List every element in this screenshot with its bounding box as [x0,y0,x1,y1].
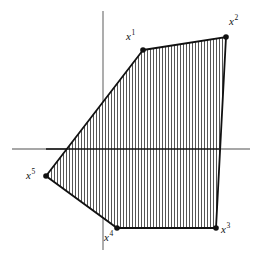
vertex-label-x2: x2 [229,16,238,27]
vertex-dot-x4 [114,225,120,231]
vertex-dot-x3 [213,225,219,231]
vertex-label-x4: x4 [104,232,113,243]
convex-pentagon [46,37,226,228]
figure-canvas: x1 x2 x3 x4 x5 [0,0,256,259]
vertex-label-x5: x5 [26,170,35,181]
vertex-dot-x2 [223,34,229,40]
vertex-label-x1: x1 [126,31,135,42]
vertex-dot-x5 [43,173,49,179]
vertex-dot-x1 [140,47,146,53]
vertex-label-x3: x3 [221,224,230,235]
